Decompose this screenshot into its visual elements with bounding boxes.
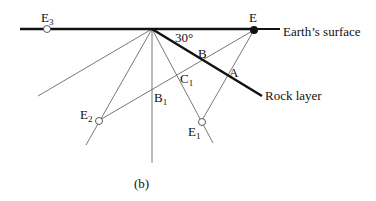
label-e3: E3 [41,10,54,27]
angle-label: 30° [175,30,193,45]
rock-layer-label: Rock layer [265,88,322,103]
rock-layer-line [152,29,262,96]
label-a: A [229,65,239,80]
label-e: E [249,10,257,25]
receiver-e2-icon [96,118,103,125]
reflection-diagram: E3 E Earth’s surface 30° B A C1 B1 E2 E1… [0,0,376,201]
label-e2: E2 [80,107,92,124]
ray-to-e2 [86,29,152,145]
label-b1: B1 [154,90,167,107]
figure-caption: (b) [134,176,149,191]
ray-left [38,29,152,96]
label-c1: C1 [180,71,193,88]
earth-surface-label: Earth’s surface [283,24,361,39]
label-e1: E1 [188,124,200,141]
receiver-e1-icon [199,119,206,126]
source-point-e [250,26,258,34]
ray-lines [38,29,254,163]
label-b: B [198,46,207,61]
